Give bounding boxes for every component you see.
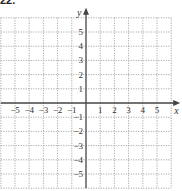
y-axis-label: y: [76, 7, 82, 18]
x-tick-label: 5: [155, 105, 160, 115]
x-axis-label: x: [173, 105, 179, 116]
y-tick-label: −5: [73, 169, 83, 179]
y-tick-label: 2: [79, 70, 84, 80]
x-tick-label: 3: [126, 105, 131, 115]
y-tick-label: 4: [79, 41, 84, 51]
x-tick-label: 2: [112, 105, 117, 115]
y-tick-label: 5: [79, 27, 84, 37]
x-tick-label: 4: [141, 105, 146, 115]
x-tick-label: −2: [53, 105, 63, 115]
y-tick-label: −3: [73, 141, 83, 151]
x-tick-label: −5: [10, 105, 20, 115]
y-tick-label: −1: [73, 112, 83, 122]
y-tick-label: 1: [79, 84, 84, 94]
y-tick-label: 3: [79, 55, 84, 65]
x-tick-label: −4: [24, 105, 34, 115]
x-tick-label: 1: [98, 105, 103, 115]
y-axis-arrow-icon: [83, 8, 89, 15]
x-tick-label: −3: [39, 105, 49, 115]
y-tick-label: −4: [73, 155, 83, 165]
coordinate-grid: xy−5−4−3−2−11234554321−1−2−3−4−5: [0, 0, 182, 191]
y-tick-label: −2: [73, 126, 83, 136]
